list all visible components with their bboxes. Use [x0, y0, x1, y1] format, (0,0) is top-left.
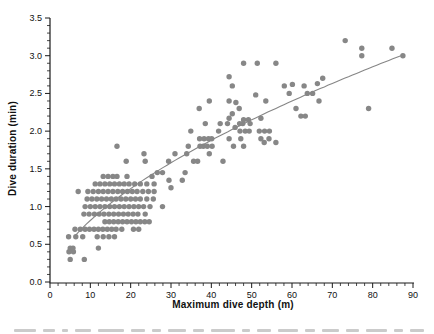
data-point [101, 211, 106, 216]
data-point [121, 211, 126, 216]
data-point [126, 181, 131, 186]
data-point [135, 211, 140, 216]
axes [50, 18, 415, 283]
data-point [303, 113, 308, 118]
data-point [287, 91, 292, 96]
data-point [147, 219, 152, 224]
data-point [101, 234, 106, 239]
data-point [151, 196, 156, 201]
data-point [72, 227, 77, 232]
data-point [188, 128, 193, 133]
data-point [226, 116, 231, 121]
data-point [124, 174, 129, 179]
data-point [144, 196, 149, 201]
data-point [290, 82, 295, 87]
y-tick-label: 3.5 [29, 13, 42, 23]
data-point [231, 144, 236, 149]
data-point [134, 189, 139, 194]
data-point [101, 174, 106, 179]
data-point [133, 196, 138, 201]
data-point [359, 53, 364, 58]
data-point [233, 100, 238, 105]
y-tick-label: 1.0 [29, 202, 42, 212]
data-point [143, 211, 148, 216]
data-point [85, 189, 90, 194]
data-point [104, 196, 109, 201]
data-point [93, 181, 98, 186]
y-tick-labels: 0.00.51.01.52.02.53.03.5 [29, 13, 42, 287]
data-point [197, 106, 202, 111]
data-point [106, 234, 111, 239]
data-point [255, 61, 260, 66]
data-point [130, 189, 135, 194]
y-tick-label: 2.0 [29, 126, 42, 136]
data-point [111, 211, 116, 216]
data-point [97, 204, 102, 209]
data-point [151, 189, 156, 194]
data-point [267, 128, 272, 133]
data-point [257, 128, 262, 133]
data-point [141, 151, 146, 156]
data-point [117, 204, 122, 209]
data-point [144, 181, 149, 186]
data-point [112, 204, 117, 209]
data-point [110, 189, 115, 194]
data-point [207, 151, 212, 156]
data-point [68, 257, 73, 262]
data-point [315, 81, 320, 86]
data-point [180, 178, 185, 183]
data-point [172, 151, 177, 156]
data-point [97, 181, 102, 186]
x-axis-title: Maximum dive depth (m) [50, 299, 416, 310]
data-point [136, 204, 141, 209]
y-tick-label: 1.5 [29, 164, 42, 174]
data-point [96, 189, 101, 194]
data-point [203, 121, 208, 126]
data-point [122, 204, 127, 209]
data-point [226, 98, 231, 103]
data-point [122, 181, 127, 186]
data-point [218, 121, 223, 126]
data-point [241, 144, 246, 149]
data-point [128, 196, 133, 201]
data-point [237, 128, 242, 133]
y-tick-label: 0.0 [29, 277, 42, 287]
data-point [116, 211, 121, 216]
data-point [266, 136, 271, 141]
data-point [107, 181, 112, 186]
data-point [80, 234, 85, 239]
data-point [93, 204, 98, 209]
data-point [343, 38, 348, 43]
data-point [99, 196, 104, 201]
data-point [160, 170, 165, 175]
dive-scatter-chart: 0102030405060708090 0.00.51.01.52.02.53.… [0, 0, 434, 320]
data-point [216, 128, 221, 133]
data-point [105, 174, 110, 179]
data-point [70, 245, 75, 250]
data-point [146, 189, 151, 194]
data-point [130, 211, 135, 216]
data-point [301, 83, 306, 88]
data-point [263, 98, 268, 103]
data-point [160, 204, 165, 209]
cut-off-caption-fragment [14, 327, 424, 332]
data-point [91, 189, 96, 194]
data-point [124, 159, 129, 164]
data-point [131, 227, 136, 232]
data-point [88, 204, 93, 209]
data-point [209, 144, 214, 149]
data-point [92, 211, 97, 216]
data-point [316, 98, 321, 103]
data-point [115, 189, 120, 194]
data-point [141, 204, 146, 209]
data-point [95, 234, 100, 239]
data-point [126, 211, 131, 216]
data-point [320, 76, 325, 81]
data-point [89, 196, 94, 201]
data-point [168, 185, 173, 190]
data-point [273, 140, 278, 145]
data-point [113, 227, 118, 232]
data-point [112, 181, 117, 186]
data-point [359, 46, 364, 51]
data-point [138, 196, 143, 201]
